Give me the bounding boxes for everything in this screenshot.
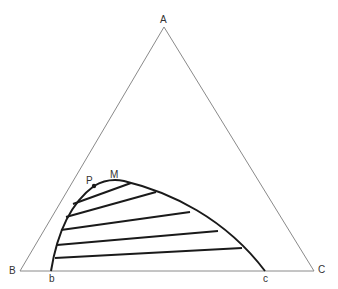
tie-line xyxy=(66,192,156,217)
point-label-b: b xyxy=(49,274,55,284)
tie-line xyxy=(61,212,190,230)
point-label-c: c xyxy=(263,274,268,284)
point-label-m: M xyxy=(110,170,118,180)
vertex-label-c: C xyxy=(318,265,325,275)
ternary-diagram xyxy=(0,0,338,289)
point-label-p: P xyxy=(86,176,93,186)
vertex-label-b: B xyxy=(9,266,16,276)
ternary-triangle xyxy=(20,27,314,271)
tie-line xyxy=(57,231,218,245)
vertex-label-a: A xyxy=(160,15,167,25)
tie-line xyxy=(55,248,242,258)
